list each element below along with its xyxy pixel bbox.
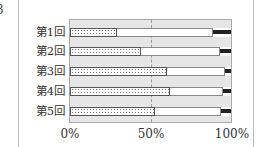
bar-segment-black [223, 87, 231, 96]
x-tick-50: 50% [138, 127, 165, 141]
bar-segment-white [155, 107, 221, 116]
bar-segment-dotted [70, 87, 170, 96]
bar-row [70, 67, 231, 76]
bar-row [70, 87, 231, 96]
bar-segment-white [167, 67, 225, 76]
bar-segment-white [117, 28, 214, 37]
bar-segment-black [225, 67, 231, 76]
bar-row [70, 28, 231, 37]
category-label: 第2回 [36, 42, 65, 58]
bar-row [70, 47, 231, 56]
bar-row [70, 107, 231, 116]
category-label: 第4回 [36, 82, 65, 98]
bar-segment-white [170, 87, 223, 96]
bar-segment-dotted [70, 67, 167, 76]
x-tick-0: 0% [60, 127, 79, 141]
bar-segment-dotted [70, 107, 155, 116]
bar-segment-black [213, 28, 231, 37]
bar-segment-black [220, 47, 231, 56]
category-label: 第1回 [36, 23, 65, 39]
bar-segment-dotted [70, 28, 117, 37]
x-tick-100: 100% [215, 127, 249, 141]
figure-number: 3 [0, 3, 4, 17]
bar-segment-dotted [70, 47, 141, 56]
plot-area [69, 19, 232, 123]
bar-segment-white [141, 47, 220, 56]
category-label: 第5回 [36, 102, 65, 118]
bar-segment-black [221, 107, 231, 116]
category-label: 第3回 [36, 62, 65, 78]
